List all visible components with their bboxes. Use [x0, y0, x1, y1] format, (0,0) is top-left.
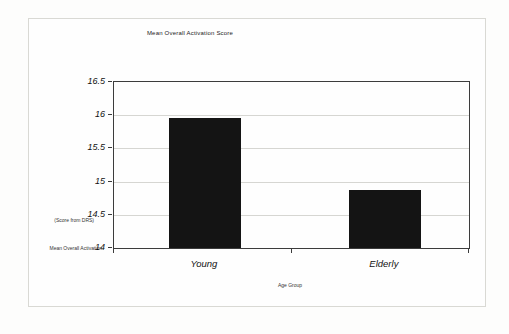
x-tick-mark: [468, 249, 469, 253]
y-tick-label: 16: [50, 108, 105, 120]
x-category-label-elderly: Elderly: [334, 258, 434, 269]
y-tick-mark: [108, 181, 112, 182]
y-tick-label: 15.5: [50, 141, 105, 153]
plot-area: [113, 81, 470, 249]
y-tick-mark: [108, 147, 112, 148]
x-tick-mark: [291, 249, 292, 253]
x-axis-label: Age Group: [240, 282, 340, 288]
y-tick-mark: [108, 81, 112, 82]
gridline-15.5: [114, 148, 469, 149]
y-tick-label: 14.5: [50, 208, 105, 220]
y-tick-label: 14: [50, 241, 105, 253]
y-tick-label: 16.5: [50, 75, 105, 87]
x-category-label-young: Young: [154, 258, 254, 269]
gridline-16: [114, 115, 469, 116]
y-tick-mark: [108, 214, 112, 215]
chart-title: Mean Overall Activation Score: [110, 30, 270, 36]
x-tick-mark: [113, 249, 114, 253]
y-tick-label: 15: [50, 175, 105, 187]
gridline-15: [114, 182, 469, 183]
y-tick-mark: [108, 247, 112, 248]
bar-elderly: [349, 190, 421, 248]
bar-young: [169, 118, 241, 248]
figure-canvas: Mean Overall Activation Score (Score fro…: [0, 0, 509, 334]
y-tick-mark: [108, 114, 112, 115]
